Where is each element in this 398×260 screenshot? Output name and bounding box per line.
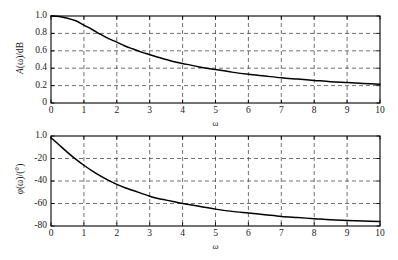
- y-tick-label: 0: [42, 98, 47, 108]
- phase-y-axis-title: φ(ω)/(°): [15, 159, 25, 199]
- phase-x-axis-title: ω: [212, 241, 218, 251]
- y-tick-label: -40: [34, 176, 47, 186]
- x-tick-label: 0: [49, 229, 54, 239]
- x-tick-label: 4: [180, 106, 185, 116]
- x-tick-label: 2: [114, 229, 119, 239]
- x-tick-label: 10: [375, 229, 385, 239]
- phase-plot-canvas: [0, 128, 398, 260]
- y-tick-label: 0.2: [35, 81, 47, 91]
- y-tick-label: -60: [34, 199, 47, 209]
- x-tick-label: 9: [345, 229, 350, 239]
- figure-container: A(ω)/dB ω 01234567891000.20.40.60.81.0 φ…: [0, 0, 398, 260]
- x-tick-label: 2: [114, 106, 119, 116]
- magnitude-x-axis-title: ω: [212, 118, 218, 128]
- y-tick-label: 0.4: [35, 63, 47, 73]
- x-tick-label: 0: [49, 106, 54, 116]
- phase-y-axis-title-rest: (ω)/(°): [15, 164, 25, 189]
- x-tick-label: 4: [180, 229, 185, 239]
- y-tick-label: 0.8: [35, 29, 47, 39]
- x-tick-label: 7: [279, 229, 284, 239]
- x-tick-label: 7: [279, 106, 284, 116]
- x-tick-label: 3: [147, 229, 152, 239]
- magnitude-plot-canvas: [0, 0, 398, 128]
- phase-y-axis-title-var: φ: [15, 189, 25, 194]
- x-tick-label: 6: [246, 106, 251, 116]
- phase-plot-panel: φ(ω)/(°) ω 012345678910-80-60-40-201.0: [0, 128, 398, 260]
- y-tick-label: 0.6: [35, 46, 47, 56]
- magnitude-plot-panel: A(ω)/dB ω 01234567891000.20.40.60.81.0: [0, 0, 398, 128]
- x-tick-label: 5: [213, 106, 218, 116]
- y-tick-label: 1.0: [35, 11, 47, 21]
- magnitude-y-axis-title-rest: (ω)/dB: [15, 41, 25, 67]
- x-tick-label: 5: [213, 229, 218, 239]
- y-tick-label: 1.0: [35, 131, 47, 141]
- x-tick-label: 8: [312, 229, 317, 239]
- x-tick-label: 8: [312, 106, 317, 116]
- x-tick-label: 10: [375, 106, 385, 116]
- x-tick-label: 6: [246, 229, 251, 239]
- magnitude-y-axis-title: A(ω)/dB: [15, 38, 25, 78]
- y-tick-label: -80: [34, 221, 47, 231]
- y-tick-label: -20: [34, 154, 47, 164]
- x-tick-label: 1: [82, 106, 87, 116]
- magnitude-y-axis-title-var: A: [15, 68, 25, 74]
- x-tick-label: 3: [147, 106, 152, 116]
- x-tick-label: 9: [345, 106, 350, 116]
- x-tick-label: 1: [82, 229, 87, 239]
